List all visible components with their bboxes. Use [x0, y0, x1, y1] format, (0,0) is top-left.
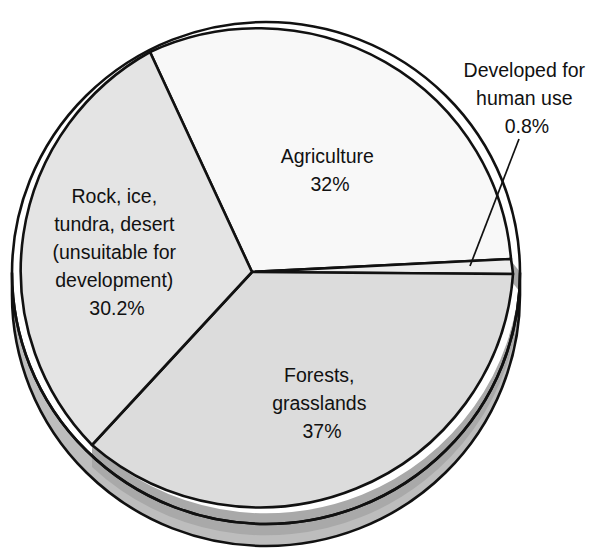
rock-label-line-2: tundra, desert — [54, 213, 175, 235]
agriculture-label-line-1: Agriculture — [281, 145, 374, 167]
agriculture-label-line-2: 32% — [310, 173, 349, 195]
developed-label-line-2: human use — [476, 87, 572, 109]
slice-label-developed: Developed for human use 0.8% — [464, 59, 591, 137]
svg-text:Developed for human us: Developed for human use 0.8% — [464, 59, 591, 137]
developed-label-line-3: 0.8% — [505, 115, 549, 137]
forests-label-line-3: 37% — [302, 420, 341, 442]
forests-label-line-1: Forests, — [284, 364, 354, 386]
rock-label-line-5: 30.2% — [89, 297, 144, 319]
pie-chart-figure: Agriculture 32% Developed for human use … — [0, 0, 610, 558]
rock-label-line-3: (unsuitable for — [53, 241, 177, 263]
rock-label-line-4: development) — [55, 269, 173, 291]
developed-label-line-1: Developed for — [464, 59, 586, 81]
forests-label-line-2: grasslands — [272, 392, 367, 414]
pie-chart-svg: Agriculture 32% Developed for human use … — [0, 0, 610, 558]
rock-label-line-1: Rock, ice, — [71, 185, 157, 207]
